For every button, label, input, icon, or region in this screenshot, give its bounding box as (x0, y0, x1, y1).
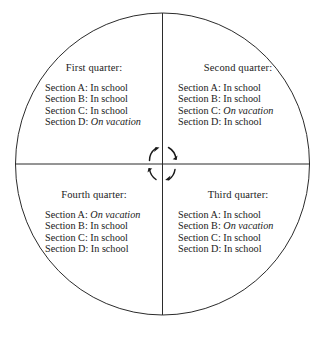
section-row: Section A: In school (178, 82, 308, 93)
section-label: Section C: (45, 232, 88, 243)
section-row: Section A: In school (45, 82, 164, 93)
quadrant-first-quarter: First quarter: Section A: In school Sect… (24, 62, 164, 127)
section-row: Section D: On vacation (45, 116, 164, 127)
rotation-arrow-lower-left (150, 169, 157, 180)
section-status: On vacation (223, 220, 273, 231)
section-row: Section C: In school (45, 232, 164, 243)
section-label: Section A: (45, 209, 88, 220)
section-label: Section A: (45, 82, 88, 93)
arrowhead-top-left (154, 147, 160, 152)
section-row: Section B: In school (45, 220, 164, 231)
section-status: In school (90, 82, 128, 93)
quadrant-title-fourth-quarter: Fourth quarter: (24, 189, 164, 200)
section-row: Section D: In school (45, 243, 164, 254)
quadrant-third-quarter: Third quarter: Section A: In school Sect… (168, 189, 308, 254)
section-row: Section D: In school (178, 243, 308, 254)
section-label: Section C: (178, 232, 221, 243)
section-label: Section D: (178, 116, 221, 127)
section-status: In school (91, 243, 129, 254)
section-label: Section D: (178, 243, 221, 254)
section-status: In school (223, 82, 261, 93)
section-status: In school (223, 209, 261, 220)
section-status: In school (224, 116, 262, 127)
section-status: In school (224, 243, 262, 254)
quadrant-title-first-quarter: First quarter: (24, 62, 164, 73)
quadrant-second-quarter: Second quarter: Section A: In school Sec… (168, 62, 308, 127)
section-label: Section B: (178, 220, 221, 231)
section-status: On vacation (91, 116, 141, 127)
section-status: In school (90, 232, 128, 243)
quadrant-fourth-quarter: Fourth quarter: Section A: On vacation S… (24, 189, 164, 254)
section-label: Section B: (45, 93, 88, 104)
diagram-canvas (0, 0, 325, 338)
section-status: In school (90, 93, 128, 104)
section-label: Section C: (178, 105, 221, 116)
section-list-fourth-quarter: Section A: On vacation Section B: In sch… (24, 209, 164, 254)
section-label: Section A: (178, 209, 221, 220)
quadrant-title-third-quarter: Third quarter: (168, 189, 308, 200)
section-list-first-quarter: Section A: In school Section B: In schoo… (24, 82, 164, 127)
section-status: In school (223, 93, 261, 104)
section-list-third-quarter: Section A: In school Section B: On vacat… (168, 209, 308, 254)
section-status: In school (223, 232, 261, 243)
quarter-rotation-figure: First quarter: Section A: In school Sect… (0, 0, 325, 338)
section-status: In school (90, 220, 128, 231)
section-status: On vacation (223, 105, 273, 116)
section-label: Section D: (45, 243, 88, 254)
section-row: Section A: In school (178, 209, 308, 220)
section-label: Section B: (178, 93, 221, 104)
section-label: Section D: (45, 116, 88, 127)
rotation-arrow-lower-right (169, 170, 175, 180)
section-row: Section B: In school (178, 93, 308, 104)
section-list-second-quarter: Section A: In school Section B: In schoo… (168, 82, 308, 127)
section-status: On vacation (90, 209, 140, 220)
section-row: Section C: On vacation (178, 105, 308, 116)
section-row: Section C: In school (178, 232, 308, 243)
rotation-arrow-upper-right (169, 148, 177, 160)
section-row: Section B: In school (45, 93, 164, 104)
section-label: Section A: (178, 82, 221, 93)
section-row: Section D: In school (178, 116, 308, 127)
section-label: Section B: (45, 220, 88, 231)
section-status: In school (90, 105, 128, 116)
section-row: Section A: On vacation (45, 209, 164, 220)
quadrant-title-second-quarter: Second quarter: (168, 62, 308, 73)
section-row: Section C: In school (45, 105, 164, 116)
section-row: Section B: On vacation (178, 220, 308, 231)
section-label: Section C: (45, 105, 88, 116)
